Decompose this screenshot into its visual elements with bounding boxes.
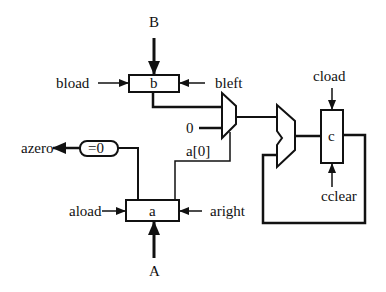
wire-b-to-mux	[153, 92, 222, 107]
register-c-label: c	[328, 128, 335, 144]
input-B: B	[149, 14, 159, 74]
mux	[222, 93, 236, 138]
bleft-label: bleft	[215, 75, 243, 91]
signal-aload: aload	[69, 203, 125, 219]
output-azero: azero	[21, 140, 80, 156]
signal-cload: cload	[313, 68, 346, 109]
signal-aright: aright	[180, 203, 246, 219]
comparator-label: =0	[88, 140, 104, 156]
azero-label: azero	[21, 140, 53, 156]
signal-bload: bload	[56, 75, 128, 91]
input-A: A	[149, 222, 160, 279]
cload-label: cload	[313, 68, 346, 84]
register-b-label: b	[150, 75, 158, 91]
mux-const-zero: 0	[186, 120, 194, 136]
register-a-label: a	[149, 203, 156, 219]
aright-label: aright	[210, 203, 246, 219]
zero-comparator: =0	[80, 140, 118, 156]
input-B-label: B	[149, 14, 159, 30]
signal-bleft: bleft	[180, 75, 243, 91]
register-c: c	[321, 110, 343, 163]
input-A-label: A	[149, 263, 160, 279]
bload-label: bload	[56, 75, 90, 91]
aload-label: aload	[69, 203, 102, 219]
cclear-label: cclear	[321, 188, 357, 204]
register-b: b	[129, 75, 179, 92]
adder	[277, 105, 295, 167]
register-a: a	[126, 200, 179, 221]
a0-label: a[0]	[186, 143, 210, 159]
datapath-diagram: B b bload bleft 0 c cload c	[0, 0, 386, 292]
wire-a-to-comparator	[118, 148, 138, 200]
signal-cclear: cclear	[321, 164, 357, 204]
